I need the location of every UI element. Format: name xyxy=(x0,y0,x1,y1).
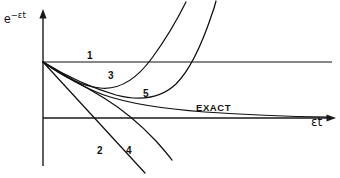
curve-label-exact: EXACT xyxy=(196,103,231,113)
x-axis-label: εt xyxy=(311,116,322,128)
curve-label-1: 1 xyxy=(87,51,93,61)
y-axis-label: e−εt xyxy=(4,13,26,25)
x-axis xyxy=(43,114,336,121)
curve-label-2: 2 xyxy=(97,146,103,156)
y-axis-arrowhead xyxy=(39,9,46,19)
y-axis-label-base: e xyxy=(4,12,11,26)
curve-label-5: 5 xyxy=(143,89,149,99)
plot-canvas xyxy=(0,0,340,178)
curve-order-5 xyxy=(43,1,216,98)
x-axis-arrowhead xyxy=(327,114,337,121)
curve-label-4: 4 xyxy=(126,146,132,156)
figure-container: e−εt εt 1 2 3 4 5 EXACT xyxy=(0,0,340,178)
y-axis xyxy=(39,9,46,166)
curve-label-3: 3 xyxy=(108,71,114,81)
y-axis-label-exponent: −εt xyxy=(11,10,26,20)
